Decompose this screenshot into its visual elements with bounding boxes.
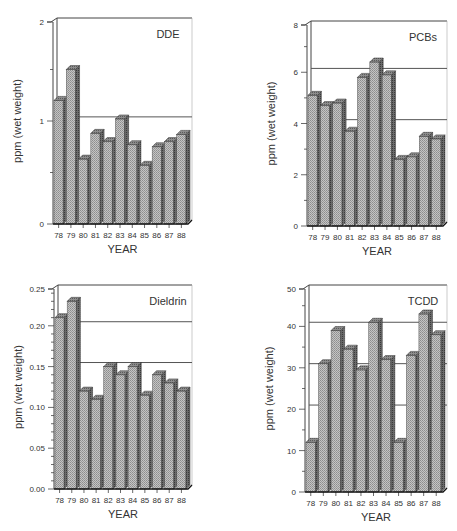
- bar-88: [177, 130, 190, 224]
- x-tick-label: 86: [407, 499, 416, 508]
- y-axis-label: ppm (wet weight): [12, 345, 24, 429]
- x-tick-label: 79: [321, 233, 330, 242]
- bar-78: [55, 314, 68, 489]
- y-axis-cap: [299, 285, 309, 289]
- y-tick-label: 0.15: [29, 363, 45, 372]
- x-tick-label: 82: [357, 499, 366, 508]
- y-tick-label: 2: [294, 171, 299, 180]
- bar-85: [395, 155, 408, 226]
- x-tick-label: 88: [177, 231, 186, 240]
- y-tick-label: 0.25: [29, 285, 45, 294]
- bar-86: [407, 153, 420, 226]
- x-tick-label: 79: [319, 499, 328, 508]
- bar-87: [165, 379, 178, 489]
- y-tick-label: 0: [294, 222, 299, 231]
- x-tick-label: 82: [104, 496, 113, 505]
- x-tick-label: 84: [382, 499, 391, 508]
- bar-83: [115, 115, 128, 224]
- y-tick-label: 50: [287, 285, 296, 294]
- bar-84: [128, 141, 141, 224]
- y-tick-label: 40: [287, 322, 296, 331]
- y-axis-label: ppm (wet weight): [265, 82, 277, 166]
- bar-79: [66, 66, 79, 225]
- bar-84: [381, 356, 395, 492]
- bar-82: [104, 363, 117, 489]
- x-axis-label: YEAR: [108, 243, 138, 255]
- x-tick-label: 88: [432, 499, 441, 508]
- x-tick-label: 84: [128, 496, 137, 505]
- y-tick-label: 0.05: [29, 444, 45, 453]
- y-tick-label: 6: [294, 68, 299, 77]
- bar-84: [128, 363, 141, 489]
- x-tick-label: 88: [177, 496, 186, 505]
- tcdd-chart: 010203040507879808182838485868788TCDDYEA…: [263, 285, 447, 523]
- bar-82: [103, 138, 116, 224]
- bar-82: [356, 366, 370, 492]
- x-tick-label: 79: [67, 496, 76, 505]
- x-tick-label: 84: [128, 231, 137, 240]
- x-tick-label: 85: [394, 499, 403, 508]
- chart-title: Dieldrin: [149, 295, 186, 307]
- x-tick-label: 83: [116, 496, 125, 505]
- bar-81: [92, 395, 105, 489]
- x-tick-label: 81: [344, 499, 353, 508]
- y-tick-label: 1: [40, 117, 45, 126]
- bar-81: [345, 127, 358, 226]
- bar-81: [91, 129, 104, 224]
- bar-87: [419, 132, 432, 226]
- y-axis-label: ppm (wet weight): [263, 347, 275, 431]
- bar-79: [67, 297, 80, 489]
- chart-title: DDE: [156, 28, 179, 40]
- y-tick-label: 10: [287, 447, 296, 456]
- y-axis-cap: [301, 21, 311, 25]
- y-tick-label: 30: [287, 364, 296, 373]
- x-tick-label: 87: [420, 233, 429, 242]
- x-tick-label: 85: [140, 496, 149, 505]
- x-tick-label: 78: [54, 231, 63, 240]
- dde-chart: 0127879808182838485868788DDEYEARppm (wet…: [11, 18, 192, 255]
- bar-84: [382, 71, 395, 226]
- x-tick-label: 78: [308, 233, 317, 242]
- x-tick-label: 79: [66, 231, 75, 240]
- x-tick-label: 83: [370, 233, 379, 242]
- bar-83: [116, 371, 129, 489]
- bar-82: [357, 73, 370, 226]
- x-tick-label: 83: [116, 231, 125, 240]
- x-tick-label: 81: [92, 496, 101, 505]
- x-tick-label: 83: [369, 499, 378, 508]
- x-tick-label: 86: [407, 233, 416, 242]
- bar-87: [419, 310, 433, 492]
- y-tick-label: 2: [40, 18, 45, 27]
- bar-85: [140, 161, 153, 224]
- x-tick-label: 85: [140, 231, 149, 240]
- y-axis-cap: [47, 18, 57, 22]
- bar-88: [431, 331, 445, 492]
- x-axis-label: YEAR: [362, 245, 392, 257]
- chart-title: PCBs: [409, 31, 438, 43]
- bar-88: [432, 135, 445, 226]
- x-tick-label: 80: [333, 233, 342, 242]
- chart-canvas: 0127879808182838485868788DDEYEARppm (wet…: [0, 0, 457, 531]
- y-tick-label: 0.00: [29, 485, 45, 494]
- x-tick-label: 88: [432, 233, 441, 242]
- bar-79: [319, 360, 333, 492]
- x-tick-label: 78: [55, 496, 64, 505]
- x-axis-label: YEAR: [361, 511, 391, 523]
- bar-86: [152, 143, 165, 224]
- bar-86: [152, 371, 165, 489]
- bar-78: [308, 91, 321, 226]
- x-tick-label: 86: [153, 496, 162, 505]
- bar-81: [344, 345, 358, 492]
- x-tick-label: 80: [79, 231, 88, 240]
- bar-78: [54, 96, 67, 224]
- bar-78: [306, 438, 320, 492]
- bar-85: [394, 438, 408, 492]
- x-tick-label: 84: [382, 233, 391, 242]
- x-tick-label: 82: [358, 233, 367, 242]
- x-tick-label: 78: [306, 499, 315, 508]
- y-tick-label: 0: [40, 220, 45, 229]
- bar-88: [177, 387, 190, 489]
- x-tick-label: 80: [80, 496, 89, 505]
- bar-83: [369, 318, 383, 492]
- y-tick-label: 20: [287, 405, 296, 414]
